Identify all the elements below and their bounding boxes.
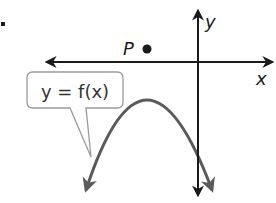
x-axis-label: x [255, 68, 267, 89]
parabola-curve [86, 100, 212, 190]
callout-label: y = f(x) [41, 81, 109, 102]
y-axis-label: y [204, 11, 216, 32]
graph-diagram: y x P y = f(x) [0, 0, 276, 203]
point-p-dot [143, 45, 152, 54]
point-p-label: P [123, 38, 134, 59]
list-marker-dot [1, 22, 5, 26]
